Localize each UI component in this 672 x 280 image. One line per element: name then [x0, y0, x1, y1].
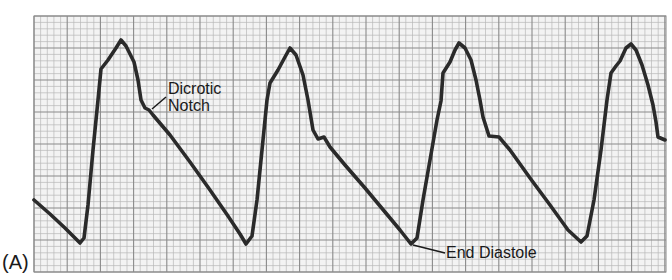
arterial-waveform-figure — [0, 0, 672, 280]
dicrotic-label-line2: Notch — [168, 97, 221, 114]
end-diastole-label: End Diastole — [446, 244, 537, 261]
dicrotic-notch-label: Dicrotic Notch — [168, 80, 221, 114]
panel-label: (A) — [2, 251, 29, 274]
dicrotic-label-line1: Dicrotic — [168, 80, 221, 97]
